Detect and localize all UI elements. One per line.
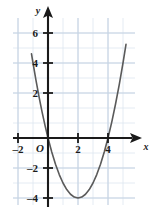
y-tick-label--4: –4: [26, 192, 39, 204]
y-tick-label-4: 4: [33, 57, 39, 69]
parabola-curve: [32, 44, 127, 198]
y-tick-label--2: –2: [26, 162, 39, 174]
grid-major: [13, 18, 135, 205]
origin-label: O: [36, 142, 44, 154]
y-axis-label: y: [35, 5, 41, 16]
x-axis-label: x: [143, 141, 149, 152]
x-tick-label--2: –2: [12, 143, 25, 155]
grid-minor: [13, 18, 135, 205]
y-tick-label-2: 2: [33, 87, 39, 99]
x-tick-label-2: 2: [75, 143, 81, 155]
coordinate-plane: –2 2 4 6 4 2 –2 –4 O x y: [0, 0, 156, 219]
y-tick-label-6: 6: [33, 27, 39, 39]
x-tick-label-4: 4: [105, 143, 111, 155]
parabola-figure: –2 2 4 6 4 2 –2 –4 O x y: [0, 0, 156, 219]
